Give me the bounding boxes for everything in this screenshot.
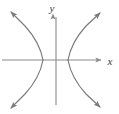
hyperbola-graph-canvas: y x xyxy=(0,0,119,114)
right-branch-lower-arm xyxy=(68,60,100,107)
y-axis-label: y xyxy=(49,2,55,14)
right-branch-upper-arm xyxy=(68,13,100,60)
x-axis-label: x xyxy=(107,55,113,67)
hyperbola-figure: y x xyxy=(0,0,119,114)
axes-group xyxy=(2,17,101,105)
left-branch-lower-arm xyxy=(11,60,43,108)
left-branch-upper-arm xyxy=(11,12,43,60)
